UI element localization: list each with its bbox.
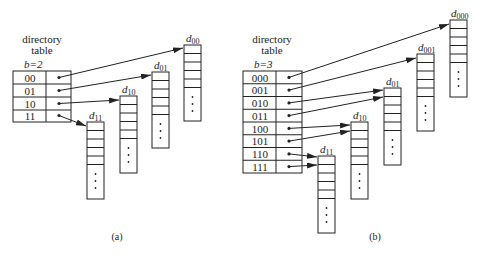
dir-row-b-2: 010 <box>252 97 269 109</box>
dir-row-b-7: 111 <box>252 161 268 173</box>
bucket-b-d000: d000 <box>450 7 469 97</box>
bucket-label: d000 <box>451 7 469 21</box>
directory-table-a <box>13 71 71 122</box>
caption-b: (b) <box>369 231 381 243</box>
bucket-label: d10 <box>122 83 136 97</box>
diagram-a: directory table b=2 00 01 10 11 d00 <box>13 32 201 243</box>
dir-row-b-0: 000 <box>252 72 269 84</box>
bucket-label: d001 <box>418 41 436 55</box>
bucket-a-d00: d00 <box>184 32 201 121</box>
dir-row-a-2: 10 <box>25 98 37 110</box>
bucket-a-d01: d01 <box>152 59 169 148</box>
extendible-hashing-diagram: directory table b=2 00 01 10 11 d00 <box>0 0 483 257</box>
dir-row-a-3: 11 <box>25 110 36 122</box>
bucket-label: d11 <box>89 109 102 123</box>
global-depth-a: b=2 <box>24 58 43 70</box>
dir-row-b-1: 001 <box>252 84 269 96</box>
bucket-b-d001: d001 <box>417 41 436 131</box>
dir-row-b-4: 100 <box>252 123 269 135</box>
caption-a: (a) <box>111 231 122 243</box>
bucket-label: d11 <box>320 143 333 157</box>
bucket-label: d00 <box>186 32 200 46</box>
bucket-label: d01 <box>386 75 400 89</box>
bucket-label: d01 <box>154 59 168 73</box>
directory-title-a-line2: table <box>31 44 52 56</box>
diagram-b: directory table b=3 000 001 010 011 100 … <box>243 7 469 243</box>
dir-row-a-0: 00 <box>25 72 37 84</box>
bucket-a-d10: d10 <box>120 83 137 173</box>
dir-row-b-5: 101 <box>252 135 269 147</box>
bucket-b-d11: d11 <box>318 143 335 233</box>
dir-row-b-6: 110 <box>252 148 269 160</box>
dir-row-b-3: 011 <box>252 110 268 122</box>
bucket-b-d10: d10 <box>351 109 368 199</box>
dir-row-a-1: 01 <box>25 85 36 97</box>
global-depth-b: b=3 <box>254 58 273 70</box>
bucket-label: d10 <box>353 109 367 123</box>
bucket-b-d01: d01 <box>384 75 401 165</box>
bucket-a-d11: d11 <box>87 109 104 199</box>
directory-title-b-line2: table <box>261 44 282 56</box>
